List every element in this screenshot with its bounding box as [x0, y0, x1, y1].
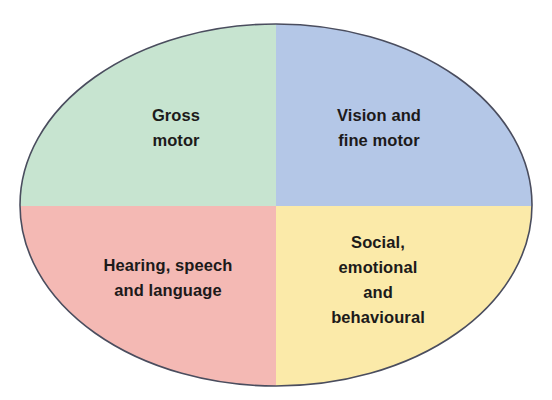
label-line: and — [308, 280, 448, 305]
developmental-domains-ellipse — [0, 0, 552, 400]
label-line: behavioural — [308, 305, 448, 330]
label-line: Vision and — [309, 103, 449, 128]
label-gross-motor: Gross motor — [116, 103, 236, 153]
label-hearing-speech-language: Hearing, speech and language — [78, 253, 258, 303]
label-line: Gross — [116, 103, 236, 128]
label-line: fine motor — [309, 128, 449, 153]
label-line: emotional — [308, 255, 448, 280]
label-line: Social, — [308, 230, 448, 255]
label-line: Hearing, speech — [78, 253, 258, 278]
label-line: motor — [116, 128, 236, 153]
quadrant-bottom-left-fill — [0, 206, 276, 400]
label-social-emotional-behavioural: Social, emotional and behavioural — [308, 230, 448, 330]
label-line: and language — [78, 278, 258, 303]
label-vision-fine-motor: Vision and fine motor — [309, 103, 449, 153]
